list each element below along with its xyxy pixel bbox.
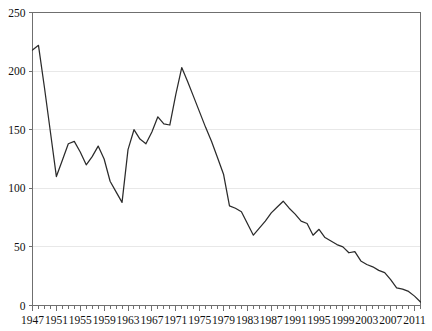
x-tick-label-1983: 1983: [236, 314, 259, 326]
x-tick-label-1971: 1971: [164, 314, 187, 326]
x-tick-label-1947: 1947: [21, 314, 44, 326]
x-tick-label-1967: 1967: [140, 314, 163, 326]
x-axis-tick-labels: 1947195119551959196319671971197519791983…: [21, 314, 426, 326]
data-series-group: [33, 45, 421, 302]
x-tick-label-2007: 2007: [379, 314, 402, 326]
y-tick-label-250: 250: [8, 7, 26, 19]
y-axis-ticks: [29, 13, 33, 306]
x-tick-label-1959: 1959: [93, 314, 116, 326]
chart-canvas: 050100150200250 194719511955195919631967…: [0, 0, 432, 331]
x-tick-label-1951: 1951: [45, 314, 68, 326]
x-tick-label-2011: 2011: [403, 314, 426, 326]
y-tick-label-200: 200: [8, 65, 26, 77]
y-tick-label-150: 150: [8, 124, 26, 136]
x-tick-label-1999: 1999: [331, 314, 354, 326]
x-axis-ticks: [33, 306, 421, 311]
y-tick-label-100: 100: [8, 182, 26, 194]
x-tick-label-1955: 1955: [69, 314, 92, 326]
x-tick-label-1987: 1987: [260, 314, 283, 326]
line-chart: 050100150200250 194719511955195919631967…: [0, 0, 432, 331]
x-tick-label-1975: 1975: [188, 314, 211, 326]
data-line-value: [33, 45, 421, 302]
gridlines: [33, 13, 421, 247]
x-tick-label-1991: 1991: [284, 314, 307, 326]
x-tick-label-1979: 1979: [212, 314, 235, 326]
x-tick-label-1963: 1963: [117, 314, 140, 326]
y-axis-tick-labels: 050100150200250: [8, 7, 26, 312]
x-tick-label-1995: 1995: [308, 314, 331, 326]
y-tick-label-50: 50: [14, 241, 26, 253]
x-tick-label-2003: 2003: [355, 314, 378, 326]
y-tick-label-0: 0: [20, 300, 26, 312]
